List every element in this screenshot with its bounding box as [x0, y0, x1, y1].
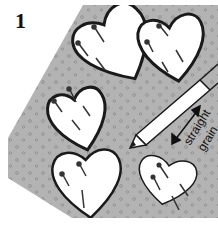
sewing-illustration: 1	[0, 0, 218, 225]
illustration-canvas: straight grain	[0, 0, 218, 225]
step-number: 1	[15, 8, 26, 34]
